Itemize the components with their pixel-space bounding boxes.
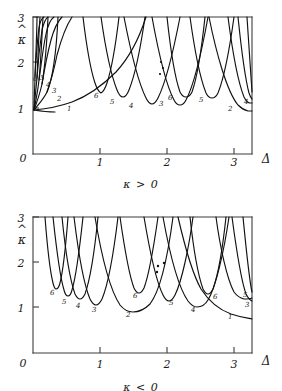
curve-3b-bottom <box>232 217 252 301</box>
curve-label-2-bottom: 2 <box>125 311 131 319</box>
panel-kappa-negative: 3 2 1 1 2 3 0 κ ^ Δ <box>0 195 282 391</box>
curve-label-6a-bottom: 6 <box>50 289 55 297</box>
curve-1b-top <box>34 110 55 112</box>
curve-label-5b-bottom: 5 <box>169 299 174 307</box>
curve-label-6b-bottom: 6 <box>133 292 138 300</box>
x-ticklabel-2-bottom: 2 <box>163 358 171 371</box>
curve-label-5a-top: 5 <box>40 74 45 82</box>
curve-6a-bottom <box>45 217 68 289</box>
caption-kappa-positive: κ > 0 <box>123 178 158 191</box>
curve-label-5c-top: 5 <box>199 96 204 104</box>
curve-3a-bottom <box>74 217 118 305</box>
x-axis-label-top: Δ <box>261 152 271 166</box>
curve-labels-bottom: 6 5 4 3 2 6 5 4 6 5 3 1 <box>50 289 250 321</box>
y-axis-hat-bottom: ^ <box>17 223 27 237</box>
y-ticklabel-2-bottom: 2 <box>17 257 25 270</box>
curve-6-right-top <box>167 17 205 97</box>
caption-kappa-negative: κ < 0 <box>123 381 158 391</box>
x-ticklabel-1-bottom: 1 <box>97 358 104 371</box>
curve-label-5a-bottom: 5 <box>62 298 67 306</box>
y-axis-hat-top: ^ <box>17 23 27 37</box>
curve-label-2a-top: 2 <box>56 95 62 103</box>
curve-label-4a-top: 4 <box>45 81 50 89</box>
curve-4-mid-top <box>124 17 180 104</box>
origin-label-top: 0 <box>20 152 27 165</box>
curve-label-6a-top: 6 <box>33 75 38 83</box>
curve-label-1-bottom: 1 <box>228 313 232 321</box>
origin-label-bottom: 0 <box>20 357 27 370</box>
curve-6c-bottom <box>190 217 226 294</box>
curve-label-4b-bottom: 4 <box>190 306 195 314</box>
curve-1-bottom <box>178 217 252 319</box>
curve-label-5c-bottom: 5 <box>243 291 248 299</box>
y-ticklabel-2-top: 2 <box>17 57 25 70</box>
curve-label-3b-top: 3 <box>159 100 164 108</box>
curve-label-1-top: 1 <box>67 105 71 113</box>
figure-container: 3 2 1 1 2 3 0 κ ^ Δ <box>0 0 282 391</box>
x-ticklabel-3-bottom: 3 <box>231 358 238 371</box>
plot-bottom: 3 2 1 1 2 3 0 κ ^ Δ <box>0 195 282 391</box>
curve-label-6b-top: 6 <box>94 92 99 100</box>
curve-5a-bottom <box>53 217 83 296</box>
curve-3c-bottom <box>243 217 252 292</box>
plot-top: 3 2 1 1 2 3 0 κ ^ Δ <box>0 0 282 196</box>
x-ticklabel-2-top: 2 <box>163 156 171 169</box>
curve-5-mid-top <box>101 17 145 97</box>
curve-labels-top: 6 5 4 3 2 1 6 5 4 3 6 5 2 4 <box>33 74 248 113</box>
curve-label-3a-top: 3 <box>52 87 57 95</box>
curve-2-left-b-top <box>47 17 72 92</box>
curve-label-6c-bottom: 6 <box>213 293 218 301</box>
curve-label-4a-bottom: 4 <box>75 302 80 310</box>
curve-label-4c-top: 4 <box>243 98 248 106</box>
y-ticklabel-1-top: 1 <box>18 103 25 116</box>
curve-6b-bottom <box>120 217 158 293</box>
y-ticklabel-1-bottom: 1 <box>18 302 25 315</box>
curve-label-6c-top: 6 <box>168 94 173 102</box>
curve-4c-right-top <box>247 17 252 92</box>
x-ticklabel-3-top: 3 <box>231 156 238 169</box>
curve-label-4b-top: 4 <box>128 102 133 110</box>
x-ticklabel-1-top: 1 <box>97 156 104 169</box>
curve-label-2b-top: 2 <box>227 105 233 113</box>
x-axis-label-bottom: Δ <box>261 354 271 368</box>
panel-kappa-positive: 3 2 1 1 2 3 0 κ ^ Δ <box>0 0 282 196</box>
curve-label-3-bottom: 3 <box>245 301 250 309</box>
curve-label-3a-bottom: 3 <box>92 306 97 314</box>
curve-family-top <box>34 17 252 112</box>
curve-label-5b-top: 5 <box>110 98 115 106</box>
